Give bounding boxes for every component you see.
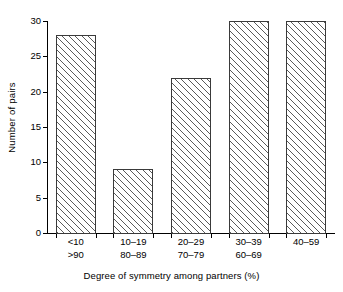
y-axis-tick-label: 10 (30, 158, 41, 168)
y-axis-tick (43, 21, 47, 22)
y-axis-title: Number of pairs (0, 0, 22, 235)
x-axis-category-label: 40–59 (277, 236, 335, 261)
x-axis-category-label-line2: 70–79 (162, 249, 220, 262)
bar (229, 21, 269, 234)
x-axis-title: Degree of symmetry among partners (%) (0, 270, 343, 281)
y-axis-tick-label: 0 (36, 228, 41, 238)
x-axis-category-label: <10>90 (47, 236, 105, 261)
y-axis-tick (43, 92, 47, 93)
x-axis-category-label-line2: 60–69 (220, 249, 278, 262)
y-axis-tick-label: 15 (30, 122, 41, 132)
y-axis-tick (43, 162, 47, 163)
y-axis-tick (43, 233, 47, 234)
bar (113, 169, 153, 234)
bar (286, 21, 326, 234)
y-axis-tick-label: 25 (30, 52, 41, 62)
y-axis-tick-label: 20 (30, 87, 41, 97)
x-axis-category-label-line2: >90 (47, 249, 105, 262)
x-axis-category-label-line1: 30–39 (235, 236, 261, 247)
x-axis-category-label: 10–1980–89 (105, 236, 163, 261)
y-axis-title-text: Number of pairs (6, 82, 17, 153)
y-axis-tick-label: 30 (30, 16, 41, 26)
x-axis-category-label-line1: 20–29 (178, 236, 204, 247)
y-axis-tick-label: 5 (36, 193, 41, 203)
x-axis-category-label-line1: 10–19 (120, 236, 146, 247)
y-axis-tick (43, 198, 47, 199)
plot-area: 051015202530 (47, 21, 335, 233)
x-axis-category-label-line1: 40–59 (293, 236, 319, 247)
bar-chart-figure: Number of pairs 051015202530 <10>9010–19… (0, 0, 343, 292)
x-axis-category-label: 20–2970–79 (162, 236, 220, 261)
y-axis-spine (47, 21, 48, 234)
x-axis-category-label: 30–3960–69 (220, 236, 278, 261)
bar (171, 78, 211, 234)
x-axis-category-label-line2 (277, 249, 335, 262)
y-axis-tick (43, 56, 47, 57)
x-axis-category-label-line1: <10 (68, 236, 84, 247)
x-axis-category-label-line2: 80–89 (105, 249, 163, 262)
bar (56, 35, 96, 234)
y-axis-tick (43, 127, 47, 128)
